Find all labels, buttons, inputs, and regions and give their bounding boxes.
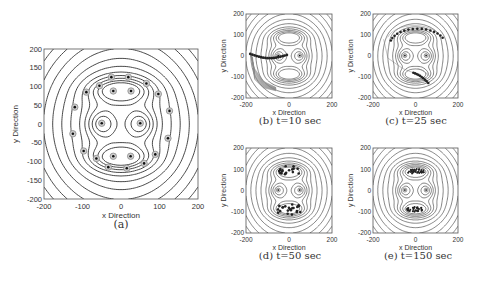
agent-dot bbox=[420, 207, 422, 209]
agent-dot bbox=[421, 209, 423, 211]
agent-dot bbox=[420, 170, 422, 172]
y-tick-label: -100 bbox=[358, 208, 371, 215]
agent-dot bbox=[411, 168, 413, 170]
y-tick-label: -200 bbox=[358, 229, 371, 236]
y-axis-label: y Direction bbox=[347, 174, 355, 207]
agent-dot bbox=[407, 208, 409, 210]
plot-e: -20002002001000-100-200x Directiony Dire… bbox=[0, 0, 483, 281]
axes-box bbox=[373, 148, 458, 233]
x-tick-label: -200 bbox=[366, 236, 379, 243]
x-tick-label: 200 bbox=[453, 236, 464, 243]
y-tick-label: 0 bbox=[367, 187, 371, 194]
agent-dot bbox=[412, 210, 414, 212]
y-tick-label: 200 bbox=[360, 144, 371, 151]
agent-dot bbox=[417, 171, 419, 173]
agent-dot bbox=[412, 207, 414, 209]
agent-dot bbox=[416, 168, 418, 170]
agent-dot bbox=[414, 210, 416, 212]
panel-e: -20002002001000-100-200x Directiony Dire… bbox=[0, 0, 483, 281]
contour-lines bbox=[373, 148, 458, 233]
caption-e: (e) t=150 sec bbox=[376, 250, 460, 261]
y-tick-label: 100 bbox=[360, 166, 371, 173]
agent-dot bbox=[417, 210, 419, 212]
agent-dot bbox=[417, 208, 419, 210]
agent-dot bbox=[413, 171, 415, 173]
agent-dot bbox=[415, 171, 417, 173]
agent-dot bbox=[422, 169, 424, 171]
x-tick-label: 0 bbox=[414, 236, 418, 243]
agent-dot bbox=[407, 172, 409, 174]
agent-dot bbox=[418, 169, 420, 171]
agent-dot bbox=[423, 171, 425, 173]
agent-dot bbox=[411, 172, 413, 174]
